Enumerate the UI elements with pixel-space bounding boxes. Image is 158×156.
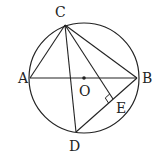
geometry-diagram: A B C D O E — [0, 0, 158, 156]
label-a: A — [17, 70, 29, 86]
right-angle-marker — [105, 94, 109, 103]
segment-cb — [65, 25, 137, 78]
label-e: E — [116, 100, 126, 116]
label-d: D — [69, 138, 80, 154]
label-c: C — [55, 4, 66, 20]
center-point-o — [82, 76, 86, 80]
label-b: B — [142, 70, 152, 86]
label-o: O — [79, 83, 90, 99]
